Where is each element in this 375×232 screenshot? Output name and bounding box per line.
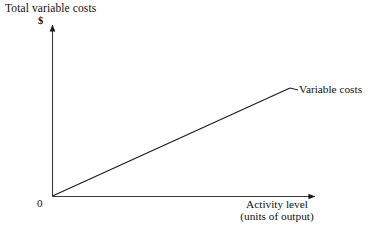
y-axis-unit-label: $ bbox=[38, 15, 43, 26]
variable-costs-line bbox=[53, 88, 291, 196]
x-axis-label: Activity level (units of output) bbox=[177, 199, 375, 223]
variable-cost-chart: Total variable costs $ 0 Activity level … bbox=[0, 0, 375, 232]
origin-label: 0 bbox=[37, 198, 43, 210]
chart-plot-area bbox=[0, 0, 375, 232]
series-label-variable-costs: Variable costs bbox=[299, 84, 362, 96]
chart-title: Total variable costs bbox=[5, 2, 96, 14]
variable-costs-label-leader bbox=[290, 88, 298, 90]
x-axis-label-line2: (units of output) bbox=[177, 211, 375, 223]
x-axis-label-line1: Activity level bbox=[246, 198, 308, 210]
